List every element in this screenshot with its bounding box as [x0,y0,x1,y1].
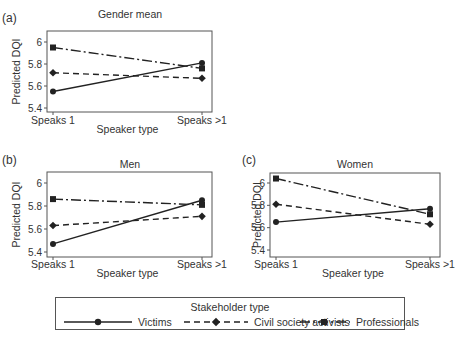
y-axis-label: Predicted DQI [251,182,263,248]
series-line [276,204,430,224]
y-tick-label: 5.8 [28,59,42,70]
legend-dashdot-square-icon [300,317,350,327]
legend: Stakeholder type Victims Civil society a… [55,297,405,330]
panel-title: Men [120,158,141,170]
circle-marker-icon [427,206,433,212]
legend-label: Victims [138,316,172,328]
square-marker-icon [199,65,205,71]
legend-row: Victims Civil society activists Professi… [56,315,404,329]
y-tick-label: 5.6 [28,81,42,92]
figure: (a)Gender mean5.45.65.86Speaks 1Speaks >… [0,0,463,348]
legend-label: Professionals [356,316,419,328]
y-tick-label: 5.4 [28,247,42,258]
series-line [53,200,202,244]
square-marker-icon [427,211,433,217]
diamond-marker-icon [198,75,206,83]
series-civil-society-activists [272,200,434,228]
y-axis-label: Predicted DQI [10,39,22,105]
legend-title: Stakeholder type [56,301,404,313]
y-tick-label: 5.4 [28,103,42,114]
series-civil-society-activists [49,213,206,230]
square-marker-icon [50,196,56,202]
x-axis-label: Speaker type [97,123,159,135]
legend-item-professionals: Professionals [300,315,419,329]
chart-panel-a: (a)Gender mean5.45.65.86Speaks 1Speaks >… [2,8,227,135]
legend-dashed-diamond-icon [184,317,248,327]
y-tick-label: 5.6 [28,224,42,235]
y-tick-label: 6 [36,178,42,189]
circle-marker-icon [50,89,56,95]
y-tick-label: 5.8 [28,201,42,212]
diamond-marker-icon [49,222,57,230]
series-line [276,209,430,222]
circle-marker-icon [273,219,279,225]
x-tick-label: Speaks 1 [31,114,75,126]
diamond-marker-icon [272,200,280,208]
chart-panel-b: (b)Men5.45.65.86Speaks 1Speaks >1Speaker… [2,153,227,279]
plot-frame [47,172,212,257]
x-axis-label: Speaker type [322,267,384,279]
circle-marker-icon [50,241,56,247]
circle-marker-icon [199,60,205,66]
y-tick-label: 6 [36,37,42,48]
panel-label: (c) [242,153,256,167]
x-axis-label: Speaker type [97,267,159,279]
x-tick-label: Speaks >1 [177,258,227,270]
square-marker-icon [199,202,205,208]
panel-label: (b) [2,153,17,167]
legend-solid-circle-icon [64,317,132,327]
diamond-marker-icon [198,213,206,221]
y-axis-label: Predicted DQI [10,182,22,248]
square-marker-icon [50,45,56,51]
series-line [276,179,430,215]
series-line [53,199,202,205]
series-line [53,48,202,69]
x-tick-label: Speaks 1 [254,258,298,270]
legend-item-victims: Victims [64,315,172,329]
panel-title: Gender mean [98,8,162,20]
panel-label: (a) [2,11,17,25]
diamond-marker-icon [426,221,434,229]
x-tick-label: Speaks >1 [405,258,455,270]
series-civil-society-activists [49,69,206,82]
series-line [53,216,202,225]
chart-panel-c: (c)Women5.45.65.86Speaks 1Speaks >1Speak… [242,153,455,279]
diamond-marker-icon [49,69,57,77]
x-tick-label: Speaks 1 [31,258,75,270]
x-tick-label: Speaks >1 [177,114,227,126]
series-line [53,63,202,92]
panel-title: Women [337,158,373,170]
plot-frame [47,31,212,112]
square-marker-icon [273,176,279,182]
